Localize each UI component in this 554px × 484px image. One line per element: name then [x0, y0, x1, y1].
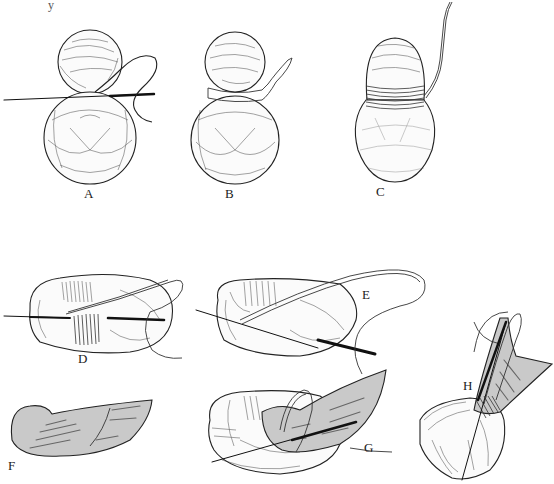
- panel-label-f: F: [8, 458, 15, 473]
- panel-h: H: [420, 312, 552, 480]
- panel-d: D: [4, 274, 183, 366]
- lower-ball: [355, 100, 434, 182]
- thread: [424, 2, 450, 96]
- corner-text: y: [48, 0, 54, 12]
- upper-ball: [205, 32, 265, 92]
- panel-g: G: [209, 370, 392, 474]
- upper-ball: [58, 30, 122, 94]
- panel-label-c: C: [376, 184, 385, 199]
- lower-ball: [44, 92, 136, 184]
- lower-ball: [191, 96, 279, 184]
- panel-label-g: G: [364, 440, 373, 455]
- illustration-canvas: y A B: [0, 0, 554, 484]
- panel-f: F: [8, 400, 152, 473]
- panel-label-d: D: [78, 351, 87, 366]
- panel-c: C: [355, 2, 452, 199]
- panel-label-h: H: [463, 378, 472, 393]
- panel-label-e: E: [362, 287, 370, 302]
- panel-b: B: [191, 32, 292, 201]
- panel-label-b: B: [225, 186, 234, 201]
- panel-e: E: [196, 270, 425, 374]
- panel-label-a: A: [84, 186, 94, 201]
- panel-a: A: [4, 30, 157, 201]
